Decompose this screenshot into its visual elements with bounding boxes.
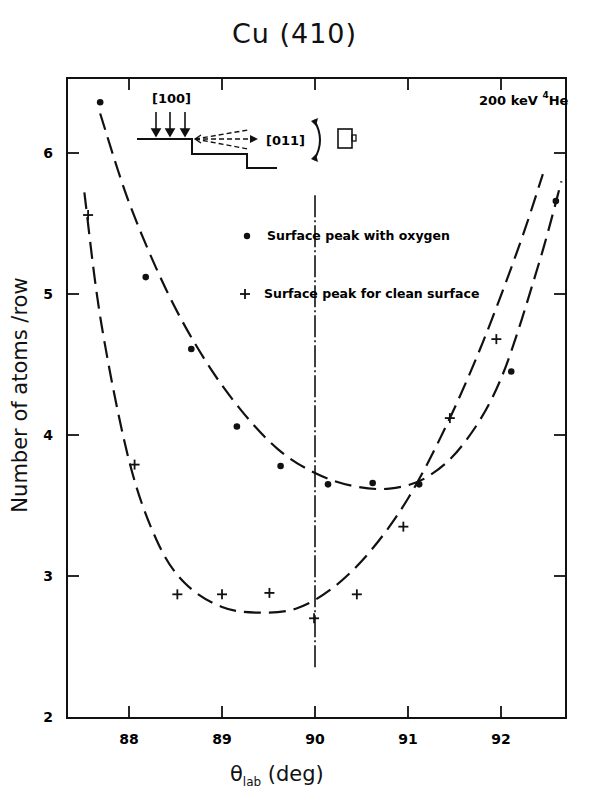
x-tick-label: 89 (212, 731, 231, 747)
beam-arrowhead (250, 135, 258, 143)
x-tick-label: 91 (398, 731, 417, 747)
data-points (83, 99, 559, 623)
data-point-clean (264, 588, 274, 598)
stepped-surface (137, 139, 277, 168)
data-point-oxygen (188, 346, 195, 353)
inset-diagram: [100] [011] (137, 91, 356, 168)
y-axis-label: Number of atoms /row (8, 235, 32, 555)
x-axis-label: θlab (deg) (230, 762, 324, 789)
data-point-oxygen (277, 463, 284, 470)
data-point-clean (352, 589, 362, 599)
y-tick-label: 4 (43, 427, 53, 443)
rotation-arrow-icon (314, 120, 320, 160)
data-point-oxygen (325, 481, 332, 488)
data-point-oxygen (369, 480, 376, 487)
beam-energy: 200 keV (479, 93, 542, 108)
x-tick-label: 88 (119, 731, 138, 747)
data-point-oxygen (553, 198, 560, 205)
detector-icon (338, 129, 352, 148)
data-point-oxygen (142, 274, 149, 281)
data-point-clean (309, 613, 319, 623)
plot-frame (67, 78, 566, 718)
x-axis-symbol: θ (230, 762, 243, 786)
inset-label-011: [011] (266, 133, 305, 148)
fit-curves (84, 114, 561, 613)
x-tick-label: 90 (305, 731, 325, 747)
data-point-oxygen (97, 99, 104, 106)
beam-element: He (549, 93, 569, 108)
data-point-oxygen (416, 481, 423, 488)
data-point-clean (83, 210, 93, 220)
x-tick-label: 92 (491, 731, 510, 747)
data-point-clean (445, 413, 455, 423)
legend: Surface peak with oxygen Surface peak fo… (240, 228, 479, 301)
data-point-clean (398, 522, 408, 532)
fit-curve-oxygen (100, 114, 561, 490)
axis-ticks: 888990919223456 (43, 78, 566, 747)
data-point-oxygen (508, 368, 515, 375)
inset-label-100: [100] (152, 91, 191, 106)
beam-annotation: 200 keV 4He (479, 90, 569, 108)
legend-dot-marker (244, 233, 250, 239)
y-tick-label: 3 (43, 568, 53, 584)
x-axis-subscript: lab (243, 775, 261, 789)
legend-label-oxygen: Surface peak with oxygen (267, 228, 450, 243)
data-point-clean (491, 334, 501, 344)
legend-plus-marker (240, 289, 250, 299)
y-tick-label: 2 (43, 709, 53, 725)
data-point-clean (172, 589, 182, 599)
x-axis-unit: (deg) (261, 762, 324, 786)
plot-area: 888990919223456 [100] [011] 200 keV 4He (0, 0, 589, 808)
scattered-beams (195, 130, 250, 149)
legend-label-clean: Surface peak for clean surface (264, 286, 479, 301)
data-point-oxygen (234, 423, 241, 430)
y-tick-label: 5 (43, 286, 53, 302)
incident-arrows (152, 112, 189, 136)
y-tick-label: 6 (43, 145, 53, 161)
data-point-clean (217, 589, 227, 599)
